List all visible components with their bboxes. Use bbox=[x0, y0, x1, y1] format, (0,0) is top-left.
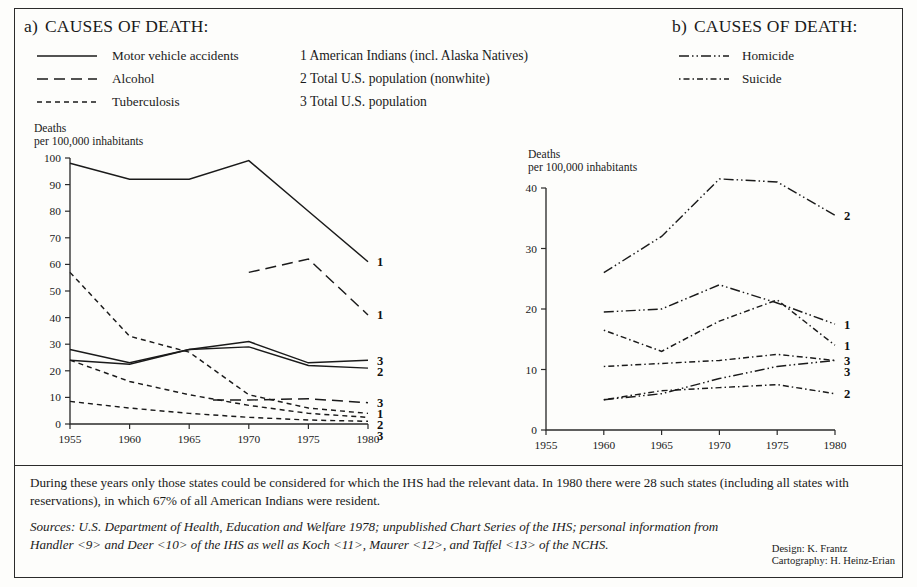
panel-b-plot: Deaths per 100,000 inhabitants 010203040… bbox=[480, 148, 895, 453]
panel-b-prefix: b) bbox=[672, 16, 687, 36]
panel-b-svg-holder: 010203040195519601965197019751980213132 bbox=[480, 176, 895, 456]
x-tick-label: 1970 bbox=[708, 439, 731, 451]
x-tick-label: 1965 bbox=[650, 439, 673, 451]
legend-item-homicide: Homicide bbox=[678, 44, 794, 67]
panel-a-y-axis-title-line1: Deaths bbox=[34, 122, 66, 135]
credit-cartography: Cartography: H. Heinz-Erian bbox=[772, 555, 895, 567]
series-end-label: 2 bbox=[844, 387, 850, 401]
key-item-2: 2 Total U.S. population (nonwhite) bbox=[300, 67, 528, 90]
series-line-2 bbox=[70, 347, 368, 368]
explanatory-note: During these years only those states cou… bbox=[30, 474, 870, 509]
x-tick-label: 1960 bbox=[592, 439, 615, 451]
panel-a-title: CAUSES OF DEATH: bbox=[45, 16, 209, 36]
y-tick-label: 20 bbox=[50, 365, 62, 377]
series-line-2 bbox=[604, 385, 835, 400]
legend-item-alcohol: Alcohol bbox=[36, 67, 239, 90]
x-tick-label: 1965 bbox=[178, 433, 201, 445]
y-tick-label: 60 bbox=[50, 258, 62, 270]
panel-b-title: CAUSES OF DEATH: bbox=[694, 16, 858, 36]
series-line-1 bbox=[70, 161, 368, 262]
x-tick-label: 1955 bbox=[535, 439, 558, 451]
legend-label-alcohol: Alcohol bbox=[112, 71, 155, 87]
panel-b-y-axis-title-line1: Deaths bbox=[528, 148, 560, 161]
legend-item-tuberculosis: Tuberculosis bbox=[36, 90, 239, 113]
panel-a-y-axis-title-line2: per 100,000 inhabitants bbox=[34, 135, 143, 148]
legend-item-suicide: Suicide bbox=[678, 67, 794, 90]
panel-a-y-axis-title: Deaths per 100,000 inhabitants bbox=[34, 122, 143, 149]
legend-label-suicide: Suicide bbox=[742, 71, 782, 87]
y-tick-label: 100 bbox=[44, 152, 61, 164]
panel-a-heading: a)CAUSES OF DEATH: bbox=[24, 16, 209, 37]
legend-item-motor-vehicle-accidents: Motor vehicle accidents bbox=[36, 44, 239, 67]
notes-divider bbox=[15, 465, 902, 466]
y-tick-label: 30 bbox=[526, 243, 538, 255]
axis-lines bbox=[70, 158, 368, 424]
series-line-1 bbox=[604, 300, 835, 351]
y-tick-label: 40 bbox=[50, 312, 62, 324]
series-line-1 bbox=[249, 259, 368, 315]
population-key-list: 1 American Indians (incl. Alaska Natives… bbox=[300, 44, 528, 113]
y-tick-label: 80 bbox=[50, 205, 62, 217]
x-tick-label: 1970 bbox=[237, 433, 260, 445]
y-tick-label: 0 bbox=[531, 424, 537, 436]
series-end-label: 1 bbox=[377, 308, 383, 322]
x-tick-label: 1975 bbox=[297, 433, 320, 445]
y-tick-label: 10 bbox=[526, 364, 538, 376]
series-end-label: 2 bbox=[844, 209, 850, 223]
y-tick-label: 0 bbox=[55, 418, 61, 430]
panel-b-svg: 010203040195519601965197019751980213132 bbox=[480, 176, 895, 456]
series-line-3 bbox=[70, 401, 368, 421]
panel-a-prefix: a) bbox=[24, 16, 38, 36]
legend-swatch-solid-icon bbox=[36, 50, 98, 62]
y-tick-label: 90 bbox=[50, 179, 62, 191]
sources-note: Sources: U.S. Department of Health, Educ… bbox=[30, 518, 730, 553]
panel-a-svg-holder: 0102030405060708090100195519601965197019… bbox=[24, 150, 424, 450]
series-line-3 bbox=[213, 399, 368, 403]
figure-root: a)CAUSES OF DEATH: b)CAUSES OF DEATH: Mo… bbox=[0, 0, 917, 587]
legend-label-tuberculosis: Tuberculosis bbox=[112, 94, 180, 110]
legend-swatch-dash-dot-icon bbox=[678, 73, 730, 85]
series-end-label: 1 bbox=[844, 339, 850, 353]
legend-swatch-dashed-long-icon bbox=[36, 73, 98, 85]
series-end-label: 2 bbox=[377, 365, 383, 379]
series-end-label: 3 bbox=[844, 365, 850, 379]
y-tick-label: 50 bbox=[50, 285, 62, 297]
legend-swatch-dash-dot-dot-icon bbox=[678, 50, 730, 62]
axis-lines bbox=[546, 188, 835, 430]
y-tick-label: 40 bbox=[526, 182, 538, 194]
y-tick-label: 70 bbox=[50, 232, 62, 244]
panel-b-y-axis-title-line2: per 100,000 inhabitants bbox=[528, 161, 637, 174]
legend-label-homicide: Homicide bbox=[742, 48, 794, 64]
credit-design: Design: K. Frantz bbox=[772, 543, 895, 555]
panel-b-heading: b)CAUSES OF DEATH: bbox=[672, 16, 858, 37]
x-tick-label: 1955 bbox=[59, 433, 82, 445]
key-item-1: 1 American Indians (incl. Alaska Natives… bbox=[300, 44, 528, 67]
legend-label-motor-vehicle-accidents: Motor vehicle accidents bbox=[112, 48, 239, 64]
series-line-1 bbox=[70, 272, 368, 413]
series-line-2 bbox=[604, 179, 835, 273]
series-end-label: 1 bbox=[377, 255, 383, 269]
panel-a-legend: Motor vehicle accidents Alcohol Tubercul… bbox=[36, 44, 239, 113]
x-tick-label: 1980 bbox=[824, 439, 847, 451]
series-end-label: 1 bbox=[844, 318, 850, 332]
panel-a-plot: Deaths per 100,000 inhabitants 010203040… bbox=[24, 122, 424, 452]
panel-b-y-axis-title: Deaths per 100,000 inhabitants bbox=[528, 148, 637, 175]
credits-block: Design: K. Frantz Cartography: H. Heinz-… bbox=[772, 543, 895, 568]
x-tick-label: 1975 bbox=[766, 439, 789, 451]
series-line-3 bbox=[70, 342, 368, 363]
y-tick-label: 10 bbox=[50, 391, 62, 403]
series-end-label: 3 bbox=[377, 429, 383, 443]
panel-a-svg: 0102030405060708090100195519601965197019… bbox=[24, 150, 424, 450]
y-tick-label: 20 bbox=[526, 303, 538, 315]
series-line-1 bbox=[604, 285, 835, 324]
key-item-3: 3 Total U.S. population bbox=[300, 90, 528, 113]
x-tick-label: 1960 bbox=[118, 433, 141, 445]
y-tick-label: 30 bbox=[50, 338, 62, 350]
panel-b-legend: Homicide Suicide bbox=[678, 44, 794, 90]
legend-swatch-dashed-short-icon bbox=[36, 96, 98, 108]
